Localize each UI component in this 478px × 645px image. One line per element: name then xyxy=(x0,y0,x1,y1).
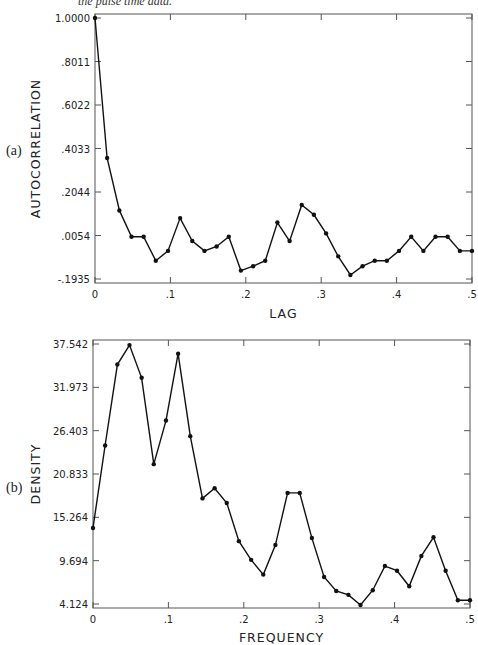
data-point-marker xyxy=(103,443,107,447)
data-point-marker xyxy=(385,259,389,263)
y-tick-label: 15.264 xyxy=(53,512,88,523)
data-series-line xyxy=(93,345,470,605)
data-point-marker xyxy=(141,234,145,238)
data-point-marker xyxy=(91,526,95,530)
data-point-marker xyxy=(456,598,460,602)
x-tick-label: .2 xyxy=(241,289,251,300)
y-axis-title: AUTOCORRELATION xyxy=(28,79,43,218)
x-tick-label: .3 xyxy=(316,289,326,300)
x-tick-label: .2 xyxy=(239,614,249,625)
data-point-marker xyxy=(93,16,97,20)
data-point-marker xyxy=(214,244,218,248)
y-axis-title: DENSITY xyxy=(28,444,43,505)
data-point-marker xyxy=(190,239,194,243)
figure: 0.1.2.3.4.51.0000.8011.6022.4033.2044.00… xyxy=(0,0,478,645)
data-point-marker xyxy=(154,259,158,263)
y-tick-label: -.1935 xyxy=(58,274,90,285)
data-point-marker xyxy=(407,584,411,588)
data-point-marker xyxy=(395,569,399,573)
data-point-marker xyxy=(105,156,109,160)
data-point-marker xyxy=(285,491,289,495)
data-point-marker xyxy=(251,264,255,268)
data-series-line xyxy=(95,18,472,275)
y-tick-label: 1.0000 xyxy=(55,13,90,24)
data-point-marker xyxy=(470,249,474,253)
data-point-marker xyxy=(298,491,302,495)
data-point-marker xyxy=(310,536,314,540)
data-point-marker xyxy=(239,268,243,272)
data-point-marker xyxy=(358,603,362,607)
data-point-marker xyxy=(115,362,119,366)
data-point-marker xyxy=(249,558,253,562)
x-axis-title: LAG xyxy=(269,306,297,321)
x-tick-label: 0 xyxy=(92,289,98,300)
data-point-marker xyxy=(212,486,216,490)
y-tick-label: .6022 xyxy=(61,100,90,111)
data-point-marker xyxy=(445,234,449,238)
data-point-marker xyxy=(300,203,304,207)
data-point-marker xyxy=(164,418,168,422)
data-point-marker xyxy=(373,259,377,263)
data-point-marker xyxy=(312,213,316,217)
data-point-marker xyxy=(336,254,340,258)
data-point-marker xyxy=(202,249,206,253)
x-axis-title: FREQUENCY xyxy=(239,630,324,645)
plot-frame xyxy=(93,340,470,608)
panel-label: (b) xyxy=(6,480,23,496)
y-tick-label: 31.973 xyxy=(53,382,88,393)
data-point-marker xyxy=(176,351,180,355)
data-point-marker xyxy=(348,273,352,277)
panel-label: (a) xyxy=(6,143,22,159)
data-point-marker xyxy=(273,543,277,547)
autocorrelation-chart: 0.1.2.3.4.51.0000.8011.6022.4033.2044.00… xyxy=(6,13,477,321)
x-tick-label: 0 xyxy=(90,614,96,625)
data-point-marker xyxy=(200,496,204,500)
data-point-marker xyxy=(129,234,133,238)
data-point-marker xyxy=(322,575,326,579)
x-tick-label: .1 xyxy=(166,289,176,300)
data-point-marker xyxy=(188,434,192,438)
x-tick-label: .1 xyxy=(164,614,174,625)
data-point-marker xyxy=(433,234,437,238)
x-tick-label: .4 xyxy=(392,289,402,300)
y-tick-label: 4.124 xyxy=(59,599,88,610)
y-tick-label: .2044 xyxy=(61,187,90,198)
y-tick-label: 37.542 xyxy=(53,339,88,350)
data-point-marker xyxy=(225,501,229,505)
data-point-marker xyxy=(397,249,401,253)
x-tick-label: .3 xyxy=(314,614,324,625)
data-point-marker xyxy=(261,572,265,576)
x-tick-label: .5 xyxy=(465,614,475,625)
data-point-marker xyxy=(383,564,387,568)
y-tick-label: 9.694 xyxy=(59,556,88,567)
data-point-marker xyxy=(178,216,182,220)
data-point-marker xyxy=(458,249,462,253)
data-point-marker xyxy=(324,231,328,235)
data-point-marker xyxy=(166,249,170,253)
data-point-marker xyxy=(334,589,338,593)
y-tick-label: 20.833 xyxy=(53,469,88,480)
data-point-marker xyxy=(287,239,291,243)
y-tick-label: 26.403 xyxy=(53,426,88,437)
y-tick-label: .8011 xyxy=(61,57,90,68)
data-point-marker xyxy=(468,598,472,602)
data-point-marker xyxy=(237,539,241,543)
data-point-marker xyxy=(227,234,231,238)
x-tick-label: .5 xyxy=(467,289,477,300)
data-point-marker xyxy=(117,208,121,212)
data-point-marker xyxy=(409,234,413,238)
data-point-marker xyxy=(152,462,156,466)
data-point-marker xyxy=(127,343,131,347)
y-tick-label: .4033 xyxy=(61,144,90,155)
data-point-marker xyxy=(360,264,364,268)
data-point-marker xyxy=(371,588,375,592)
data-point-marker xyxy=(443,569,447,573)
x-tick-label: .4 xyxy=(390,614,400,625)
data-point-marker xyxy=(431,535,435,539)
data-point-marker xyxy=(275,220,279,224)
data-point-marker xyxy=(263,259,267,263)
data-point-marker xyxy=(421,249,425,253)
data-point-marker xyxy=(419,554,423,558)
y-tick-label: .0054 xyxy=(61,231,90,242)
data-point-marker xyxy=(139,376,143,380)
